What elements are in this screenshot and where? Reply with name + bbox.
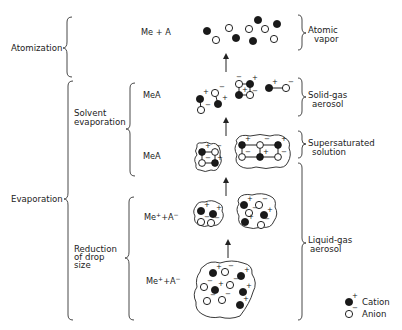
anion-particle xyxy=(261,25,268,32)
solvent-evaporation-stage: Solvent evaporation xyxy=(74,83,135,176)
legend-anion-label: Anion xyxy=(362,309,386,319)
svg-text:+: + xyxy=(218,280,224,288)
svg-text:+: + xyxy=(248,213,254,221)
svg-text:+: + xyxy=(272,78,278,86)
svg-text:−: − xyxy=(225,290,231,298)
svg-text:−: − xyxy=(210,291,216,299)
svg-text:−: − xyxy=(245,148,251,156)
svg-text:+: + xyxy=(281,135,287,143)
solid-gas-aerosol-brace xyxy=(298,78,306,116)
svg-text:−: − xyxy=(204,213,210,221)
svg-text:−: − xyxy=(233,275,239,283)
svg-text:+: + xyxy=(217,154,223,162)
svg-text:−: − xyxy=(216,142,222,150)
species-atomic: Me + A xyxy=(141,27,171,37)
reduction-stage: Reduction of drop size xyxy=(74,197,134,320)
desolvation-diagram: Atomization Evaporation Solvent evaporat… xyxy=(0,0,402,330)
solid-gas-aerosol-particles: + − − + − + + − + − xyxy=(196,73,294,114)
anion-particle xyxy=(197,106,204,113)
svg-text:+: + xyxy=(352,292,358,300)
svg-text:−: − xyxy=(205,154,211,162)
legend-cation-label: Cation xyxy=(362,297,390,307)
svg-text:−: − xyxy=(264,135,270,143)
atomization-label: Atomization xyxy=(11,43,62,53)
anion-particle xyxy=(225,24,232,31)
atomic-vapor-state: Atomic vapor xyxy=(298,15,339,50)
anion-particle xyxy=(245,25,252,32)
svg-text:−: − xyxy=(352,304,358,312)
svg-text:−: − xyxy=(288,78,294,86)
svg-text:+: + xyxy=(216,204,222,212)
cation-particle xyxy=(232,34,239,41)
liquid-gas-large-droplet: + − + − + − + − − + xyxy=(194,261,255,318)
liquid-gas-label-2: aerosol xyxy=(310,244,341,254)
supersaturated-solution-particles: + − − + + − + − + − xyxy=(195,135,291,172)
cation-particle xyxy=(249,37,256,44)
svg-text:+: + xyxy=(246,282,252,290)
svg-text:+: + xyxy=(247,195,253,203)
svg-text:+: + xyxy=(222,94,228,102)
svg-text:−: − xyxy=(207,277,213,285)
atomic-vapor-brace xyxy=(298,15,306,50)
cation-particle xyxy=(196,95,203,102)
evaporation-stage: Evaporation xyxy=(11,81,73,320)
solid-gas-aerosol-state: Solid-gas aerosol xyxy=(298,78,348,116)
supersaturated-label-2: solution xyxy=(312,147,346,157)
svg-text:+: + xyxy=(252,74,258,82)
svg-text:+: + xyxy=(244,266,250,274)
svg-text:−: − xyxy=(228,262,234,270)
cation-particle xyxy=(203,27,210,34)
svg-text:+: + xyxy=(243,295,249,303)
species-liquid-large: Me++A− xyxy=(146,275,181,286)
solvent-evaporation-label-2: evaporation xyxy=(74,117,126,127)
svg-text:−: − xyxy=(281,148,287,156)
anion-particle xyxy=(211,89,218,96)
supersaturated-solution-state: Supersaturated solution xyxy=(298,131,375,158)
liquid-gas-small-droplets: + + − − + − − + + − xyxy=(194,194,277,229)
svg-text:+: + xyxy=(267,206,273,214)
svg-text:−: − xyxy=(205,101,211,109)
svg-text:−: − xyxy=(262,195,268,203)
svg-text:−: − xyxy=(264,215,270,223)
svg-text:+: + xyxy=(203,88,209,96)
svg-text:Me++A−: Me++A− xyxy=(146,275,181,286)
solid-gas-label-2: aerosol xyxy=(312,99,343,109)
svg-text:+: + xyxy=(242,86,248,94)
svg-text:−: − xyxy=(252,204,258,212)
svg-text:−: − xyxy=(219,83,225,91)
atomization-brace xyxy=(63,17,72,77)
svg-text:−: − xyxy=(214,214,220,222)
atomization-stage: Atomization xyxy=(11,17,72,77)
svg-text:+: + xyxy=(216,263,222,271)
solvent-evaporation-brace xyxy=(126,83,135,176)
svg-text:−: − xyxy=(236,73,242,81)
cation-particle xyxy=(273,20,280,27)
supersaturated-brace xyxy=(298,131,306,158)
atomic-vapor-particles xyxy=(203,16,280,44)
svg-text:+: + xyxy=(204,201,210,209)
cation-particle xyxy=(254,16,261,23)
species-supersaturated: MeA xyxy=(143,151,161,161)
svg-text:+: + xyxy=(245,135,251,143)
evaporation-brace xyxy=(64,81,73,320)
cation-particle xyxy=(214,100,221,107)
legend: + Cation − Anion xyxy=(345,292,389,319)
svg-text:+: + xyxy=(263,148,269,156)
svg-text:+: + xyxy=(205,142,211,150)
reduction-label-3: size xyxy=(74,260,91,270)
liquid-gas-aerosol-state: Liquid-gas aerosol xyxy=(298,163,353,320)
atomic-vapor-label-2: vapor xyxy=(314,34,339,44)
anion-particle xyxy=(270,35,277,42)
species-solid: MeA xyxy=(143,90,161,100)
evaporation-label: Evaporation xyxy=(11,194,63,204)
svg-text:−: − xyxy=(252,87,258,95)
anion-particle xyxy=(212,36,219,43)
reduction-brace xyxy=(125,197,134,320)
liquid-gas-brace xyxy=(298,163,306,320)
svg-text:Me++A−: Me++A− xyxy=(144,211,179,222)
species-liquid-small: Me++A− xyxy=(144,211,179,222)
